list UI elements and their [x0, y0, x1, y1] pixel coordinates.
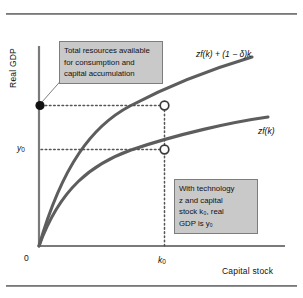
figure-rule-top	[6, 13, 297, 15]
curve-label-total-resources: zf(k) + (1 − δ)k	[196, 49, 251, 59]
marker-lower-curve-open	[160, 145, 169, 154]
axis-tick-origin: 0	[24, 253, 29, 263]
x-axis-title: Capital stock	[222, 266, 273, 276]
callout-gdp-outcome: With technology z and capital stock k₀, …	[174, 179, 258, 234]
callout-gdp-line1: With technology	[179, 183, 253, 195]
marker-total-resources-filled	[35, 101, 44, 110]
callout-gdp-line3: stock k₀, real	[179, 206, 253, 218]
callout-total-resources-line2: for consumption and	[64, 57, 158, 69]
callout-gdp-line4: GDP is y₀	[179, 218, 253, 230]
axis-tick-y0-subscript: 0	[21, 146, 25, 153]
axis-tick-y0: y0	[17, 143, 25, 153]
figure-container: Real GDP Capital stock 0 y0 k0 zf(k) + (…	[0, 0, 303, 298]
chart-plot-area: Real GDP Capital stock 0 y0 k0 zf(k) + (…	[0, 16, 303, 284]
callout-total-resources: Total resources available for consumptio…	[59, 41, 163, 84]
marker-upper-curve-open	[160, 101, 169, 110]
callout-total-resources-line1: Total resources available	[64, 45, 158, 57]
curve-label-production: zf(k)	[258, 126, 275, 136]
axis-tick-k0: k0	[158, 255, 166, 265]
y-axis-title: Real GDP	[8, 38, 18, 98]
callout-gdp-line2: z and capital	[179, 195, 253, 207]
callout-total-resources-line3: capital accumulation	[64, 68, 158, 80]
figure-rule-bottom	[6, 285, 297, 287]
axis-tick-k0-subscript: 0	[162, 258, 166, 265]
